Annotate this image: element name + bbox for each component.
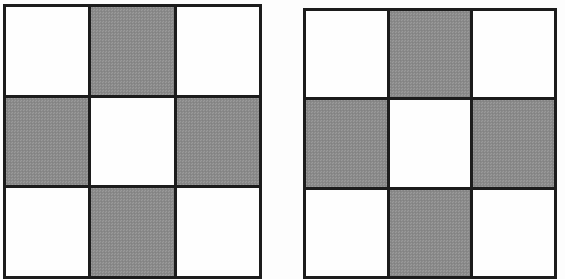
- grid-cell-r3c3[interactable]: [473, 190, 554, 276]
- grid-cell-r1c3[interactable]: [473, 11, 554, 97]
- grid-cell-r3c2[interactable]: [390, 190, 471, 276]
- grid-cell-r1c1[interactable]: [306, 11, 387, 97]
- grid-cell-r1c1[interactable]: [6, 7, 88, 95]
- grid-cell-r1c2[interactable]: [390, 11, 471, 97]
- left-grid: [3, 4, 262, 279]
- grid-cell-r2c2[interactable]: [390, 100, 471, 186]
- grid-cell-r2c3[interactable]: [177, 98, 259, 186]
- grid-cell-r1c2[interactable]: [91, 7, 173, 95]
- grid-cell-r3c3[interactable]: [177, 188, 259, 276]
- grid-cell-r2c2[interactable]: [91, 98, 173, 186]
- grid-cell-r2c1[interactable]: [306, 100, 387, 186]
- grid-cell-r2c3[interactable]: [473, 100, 554, 186]
- grid-cell-r3c1[interactable]: [6, 188, 88, 276]
- right-grid: [303, 8, 557, 279]
- grid-cell-r3c1[interactable]: [306, 190, 387, 276]
- grid-cell-r1c3[interactable]: [177, 7, 259, 95]
- grid-cell-r2c1[interactable]: [6, 98, 88, 186]
- grid-cell-r3c2[interactable]: [91, 188, 173, 276]
